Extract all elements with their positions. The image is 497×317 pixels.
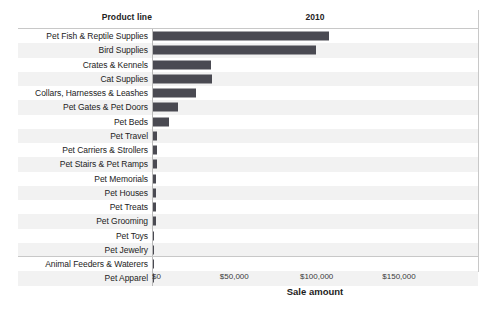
bar-row[interactable]: Pet Beds [18, 115, 478, 129]
bar[interactable] [153, 131, 157, 140]
x-axis-title: Sale amount [152, 286, 478, 297]
bar-rows-container: Pet Fish & Reptile SuppliesBird Supplies… [18, 29, 478, 257]
bar-row[interactable]: Pet Gates & Pet Doors [18, 100, 478, 114]
bar-row-label: Pet Travel [18, 131, 152, 141]
bar-row[interactable]: Pet Memorials [18, 172, 478, 186]
bar-track [152, 229, 478, 243]
bar-row[interactable]: Cat Supplies [18, 72, 478, 86]
bar-track [152, 200, 478, 214]
bar-row[interactable]: Animal Feeders & Waterers [18, 257, 478, 271]
bar-row[interactable]: Pet Fish & Reptile Supplies [18, 29, 478, 43]
x-tick-label: $0 [152, 272, 161, 281]
bar-row-label: Pet Carriers & Strollers [18, 145, 152, 155]
bar-track [152, 157, 478, 171]
bar-row[interactable]: Pet Jewelry [18, 243, 478, 257]
bar[interactable] [153, 103, 178, 112]
bar-row-label: Crates & Kennels [18, 60, 152, 70]
bar-track [152, 172, 478, 186]
bar-row[interactable]: Pet Treats [18, 200, 478, 214]
chart-screenshot: Product line 2010 Pet Fish & Reptile Sup… [0, 0, 497, 317]
bar-row-label: Pet Stairs & Pet Ramps [18, 159, 152, 169]
bar-track [152, 100, 478, 114]
chart-frame: Product line 2010 Pet Fish & Reptile Sup… [18, 10, 479, 272]
bar-track [152, 257, 478, 271]
bar-track [152, 115, 478, 129]
bar[interactable] [153, 117, 169, 126]
bar[interactable] [153, 46, 316, 55]
bar[interactable] [153, 160, 157, 169]
bar-row[interactable]: Pet Travel [18, 129, 478, 143]
bar-track [152, 58, 478, 72]
bar-row-label: Animal Feeders & Waterers [18, 259, 152, 269]
bar-row[interactable]: Pet Carriers & Strollers [18, 143, 478, 157]
bar[interactable] [153, 217, 156, 226]
bar-row-label: Pet Gates & Pet Doors [18, 102, 152, 112]
bar-row-label: Bird Supplies [18, 45, 152, 55]
bar-row-label: Collars, Harnesses & Leashes [18, 88, 152, 98]
bar-row[interactable]: Pet Stairs & Pet Ramps [18, 157, 478, 171]
measure-column-header: 2010 [152, 12, 478, 22]
chart-header-row: Product line 2010 [18, 10, 478, 29]
bar[interactable] [153, 60, 211, 69]
bar-row[interactable]: Pet Grooming [18, 214, 478, 228]
bar-track [152, 86, 478, 100]
bar-row[interactable]: Pet Houses [18, 186, 478, 200]
x-tick-label: $50,000 [220, 272, 249, 281]
bar-row-label: Pet Toys [18, 231, 152, 241]
bar-row-label: Pet Fish & Reptile Supplies [18, 31, 152, 41]
bar[interactable] [153, 146, 157, 155]
bar-row-label: Pet Jewelry [18, 245, 152, 255]
bar-row-label: Pet Apparel [18, 273, 152, 283]
bar-row-label: Pet Treats [18, 202, 152, 212]
bar[interactable] [153, 188, 156, 197]
bar-track [152, 129, 478, 143]
bar-row-label: Cat Supplies [18, 74, 152, 84]
bar[interactable] [153, 245, 154, 254]
bar-row-label: Pet Beds [18, 117, 152, 127]
bar-track [152, 214, 478, 228]
bar-track [152, 186, 478, 200]
bar[interactable] [153, 203, 156, 212]
bar[interactable] [153, 74, 212, 83]
bar-row[interactable]: Collars, Harnesses & Leashes [18, 86, 478, 100]
bar-row[interactable]: Pet Toys [18, 229, 478, 243]
x-tick-label: $100,000 [300, 272, 333, 281]
dimension-column-header: Product line [18, 12, 152, 22]
bar[interactable] [153, 231, 154, 240]
bar-row[interactable]: Crates & Kennels [18, 58, 478, 72]
bar-row-label: Pet Houses [18, 188, 152, 198]
x-tick-label: $150,000 [382, 272, 415, 281]
bar[interactable] [153, 89, 196, 98]
bar-track [152, 72, 478, 86]
bar-row-label: Pet Memorials [18, 174, 152, 184]
bar-track [152, 243, 478, 257]
bar-track [152, 43, 478, 57]
bar-row-label: Pet Grooming [18, 216, 152, 226]
bar-track [152, 29, 478, 43]
bar-row[interactable]: Bird Supplies [18, 43, 478, 57]
bar-track [152, 143, 478, 157]
bar[interactable] [153, 32, 329, 41]
axis-baseline [18, 256, 478, 257]
bar[interactable] [153, 174, 156, 183]
